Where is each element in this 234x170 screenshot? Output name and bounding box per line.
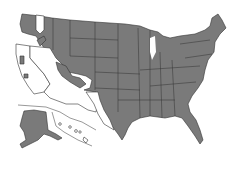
hawaii: [59, 123, 88, 143]
washington-unshaded: [36, 15, 44, 34]
california-patch: [20, 56, 24, 64]
map-svg: [0, 0, 234, 170]
us-range-map: United States: [0, 0, 234, 170]
alaska: [20, 110, 62, 148]
california-patch-2: [24, 74, 28, 78]
